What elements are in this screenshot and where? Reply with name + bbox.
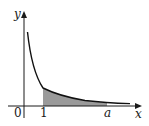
tick-label-one: 1: [40, 106, 48, 120]
origin-label: 0: [14, 106, 22, 120]
tick-label-a: a: [104, 106, 111, 120]
x-axis-label: x: [135, 107, 142, 121]
y-axis-label: y: [13, 7, 21, 21]
shaded-area: [43, 88, 107, 106]
y-axis-arrow-icon: [21, 11, 27, 18]
curve: [28, 32, 131, 104]
area-under-curve-diagram: y x 0 1 a: [0, 0, 149, 126]
